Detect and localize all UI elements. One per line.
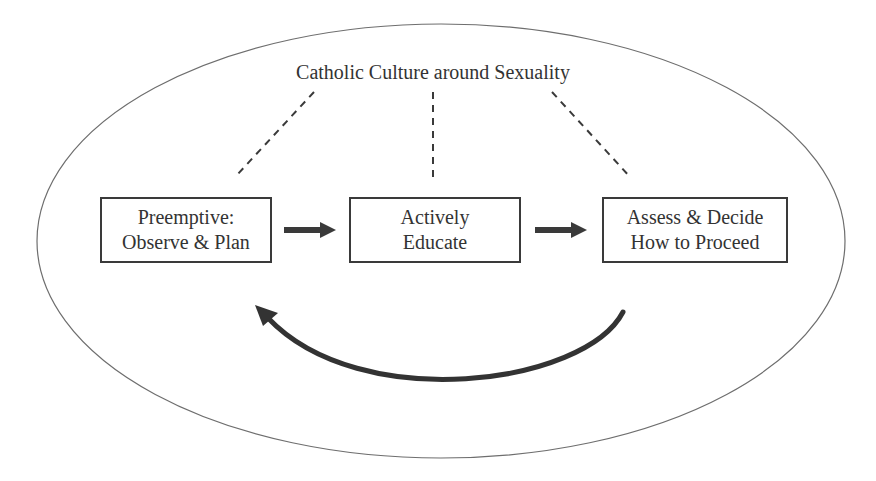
arrow-step1-to-step2	[284, 222, 336, 238]
arrow-step2-to-step3	[535, 222, 587, 238]
context-label: Catholic Culture around Sexuality	[233, 60, 633, 84]
dashed-connector-left	[236, 92, 314, 176]
step-box-line: Educate	[403, 230, 467, 255]
step-box-actively-educate: Actively Educate	[349, 197, 521, 263]
feedback-arrow-step3-to-step1	[255, 305, 623, 379]
step-box-line: Actively	[401, 205, 470, 230]
step-box-line: How to Proceed	[631, 230, 760, 255]
step-box-line: Assess & Decide	[627, 205, 764, 230]
step-box-assess-decide: Assess & Decide How to Proceed	[602, 197, 788, 263]
step-box-observe-plan: Preemptive: Observe & Plan	[100, 197, 272, 263]
dashed-connector-right	[552, 92, 631, 178]
diagram-canvas: Catholic Culture around Sexuality Preemp…	[0, 0, 876, 481]
step-box-line: Preemptive:	[138, 205, 235, 230]
step-box-line: Observe & Plan	[122, 230, 250, 255]
